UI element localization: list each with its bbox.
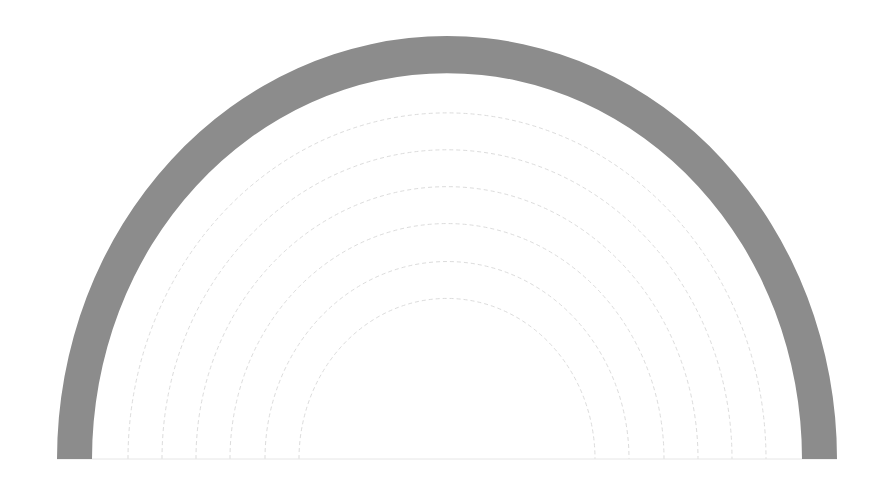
grid-arc xyxy=(230,224,664,459)
grid-arc xyxy=(265,262,629,459)
gauge-chart-svg xyxy=(0,0,881,478)
grid-arc xyxy=(128,113,766,459)
gauge-band xyxy=(57,36,837,459)
grid-arcs xyxy=(128,113,766,459)
grid-arc xyxy=(162,150,732,459)
grid-arc xyxy=(196,187,698,459)
grid-arc xyxy=(299,298,595,459)
gauge-chart xyxy=(0,0,881,478)
